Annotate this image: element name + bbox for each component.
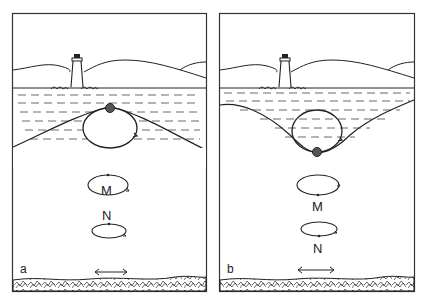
orbit-label-m: M <box>312 199 323 214</box>
wave-orbit-diagram: M N a <box>0 0 425 306</box>
panel-label-b: b <box>227 262 234 276</box>
seabed-rocks <box>13 276 206 291</box>
lighthouse-icon <box>259 54 306 89</box>
orbit-label-n: N <box>313 241 322 256</box>
panel-a: M N a <box>13 14 207 292</box>
orbit-label-n: N <box>102 208 111 223</box>
orbit-label-m: M <box>101 183 112 198</box>
seabed-rocks <box>220 276 414 291</box>
double-arrow-icon <box>95 269 127 275</box>
float-ball-icon <box>313 148 322 157</box>
panel-label-a: a <box>20 262 27 276</box>
panel-b: M N b <box>220 14 415 292</box>
double-arrow-icon <box>298 267 334 273</box>
float-ball-icon <box>106 104 115 113</box>
lighthouse-icon <box>51 54 98 89</box>
